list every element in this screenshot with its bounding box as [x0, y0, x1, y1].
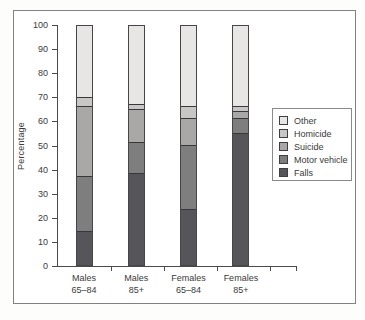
legend-swatch-icon	[279, 155, 288, 164]
y-tick	[52, 49, 57, 50]
bar-segment	[233, 134, 248, 265]
bar-segment	[233, 26, 248, 107]
bar-segment	[181, 146, 196, 211]
legend-item: Falls	[279, 166, 351, 179]
legend-label: Suicide	[294, 142, 324, 152]
bar-segment	[77, 26, 92, 98]
y-tick-label: 0	[20, 261, 48, 271]
y-tick-label: 40	[20, 165, 48, 175]
bar-segment	[77, 177, 92, 232]
y-tick-label: 70	[20, 92, 48, 102]
x-tick	[164, 267, 165, 271]
x-category-label: Females85+	[211, 272, 271, 296]
x-category-line1: Females	[211, 272, 271, 284]
x-category-label: Males65–84	[54, 272, 114, 296]
bar-segment	[129, 105, 144, 110]
y-tick	[52, 146, 57, 147]
y-tick-label: 100	[20, 20, 48, 30]
y-tick	[52, 170, 57, 171]
y-tick	[52, 25, 57, 26]
legend-swatch-icon	[279, 129, 288, 138]
x-category-line1: Males	[54, 272, 114, 284]
bar-segment	[77, 107, 92, 176]
legend-item: Other	[279, 114, 351, 127]
bar-segment	[233, 107, 248, 112]
x-axis	[57, 266, 297, 267]
y-tick-label: 80	[20, 68, 48, 78]
x-tick	[270, 267, 271, 271]
x-category-label: Males85+	[106, 272, 166, 296]
y-tick-label: 60	[20, 116, 48, 126]
bar-segment	[181, 26, 196, 107]
x-tick	[217, 267, 218, 271]
bar-segment	[181, 210, 196, 265]
x-category-label: Females65–84	[159, 272, 219, 296]
x-category-line2: 85+	[211, 284, 271, 296]
y-axis	[57, 25, 58, 267]
legend-label: Other	[294, 116, 317, 126]
bar-column	[76, 25, 93, 266]
legend-swatch-icon	[279, 142, 288, 151]
bar-segment	[181, 119, 196, 145]
y-tick	[52, 218, 57, 219]
x-tick	[296, 267, 297, 271]
bar-segment	[233, 119, 248, 133]
bar-column	[128, 25, 145, 266]
y-tick-label: 90	[20, 44, 48, 54]
bar-segment	[129, 110, 144, 143]
bar-column	[180, 25, 197, 266]
y-tick-label: 50	[20, 141, 48, 151]
bar-segment	[77, 232, 92, 265]
x-category-line2: 65–84	[159, 284, 219, 296]
bar-segment	[77, 98, 92, 108]
x-category-line1: Females	[159, 272, 219, 284]
bar-segment	[181, 107, 196, 119]
legend-item: Motor vehicle	[279, 153, 351, 166]
legend-label: Falls	[294, 168, 313, 178]
y-tick	[52, 194, 57, 195]
y-tick	[52, 266, 57, 267]
legend-label: Motor vehicle	[294, 155, 348, 165]
figure: Percentage 0102030405060708090100Males65…	[0, 0, 365, 320]
legend-item: Homicide	[279, 127, 351, 140]
bar-segment	[129, 174, 144, 265]
y-tick	[52, 73, 57, 74]
legend-swatch-icon	[279, 168, 288, 177]
bar-segment	[129, 143, 144, 174]
x-category-line1: Males	[106, 272, 166, 284]
y-tick-label: 20	[20, 213, 48, 223]
legend-item: Suicide	[279, 140, 351, 153]
x-category-line2: 85+	[106, 284, 166, 296]
y-tick-label: 10	[20, 237, 48, 247]
x-tick	[111, 267, 112, 271]
y-tick-label: 30	[20, 189, 48, 199]
legend-label: Homicide	[294, 129, 332, 139]
bar-column	[232, 25, 249, 266]
y-tick	[52, 242, 57, 243]
legend-swatch-icon	[279, 116, 288, 125]
y-tick	[52, 97, 57, 98]
legend-box: OtherHomicideSuicideMotor vehicleFalls	[272, 108, 352, 181]
legend-rows: OtherHomicideSuicideMotor vehicleFalls	[279, 114, 351, 179]
y-tick	[52, 121, 57, 122]
x-category-line2: 65–84	[54, 284, 114, 296]
bar-segment	[129, 26, 144, 105]
bar-segment	[233, 112, 248, 119]
